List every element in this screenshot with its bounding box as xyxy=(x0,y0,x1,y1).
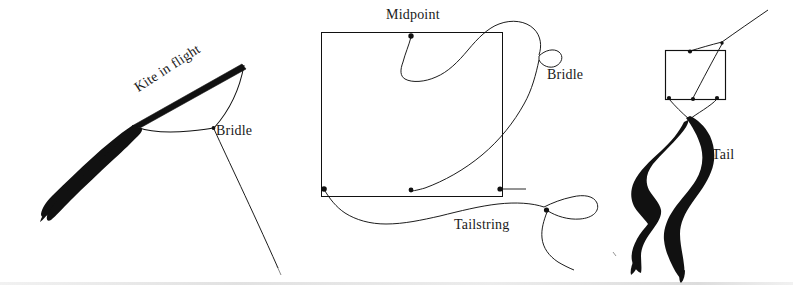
tail-streamer-secondary-icon xyxy=(47,128,142,221)
tail-bridle-right-leg xyxy=(690,99,717,119)
flying-line xyxy=(214,129,278,268)
corner-point-bottom-left xyxy=(321,186,327,192)
panel-kite-in-flight xyxy=(40,64,281,275)
kite-diagram-figure: Kite in flight Bridle Midpoint Bridle Ta… xyxy=(0,0,793,285)
tailstring-knot xyxy=(544,207,549,212)
tailstring-free-end xyxy=(542,212,574,270)
sail-square-outline xyxy=(322,33,503,197)
corner-point-bottom-middle xyxy=(409,188,414,193)
bridle-loop-icon xyxy=(539,50,562,67)
tow-point-knot xyxy=(212,126,216,130)
top-bridle-point xyxy=(688,49,692,53)
assembled-bridle-top-leg xyxy=(690,42,722,51)
label-bridle-middle: Bridle xyxy=(547,68,583,82)
assembled-sail-square xyxy=(666,51,726,100)
bridle-lower-leg xyxy=(136,127,213,132)
tailstring-path xyxy=(325,191,544,224)
label-midpoint: Midpoint xyxy=(386,8,440,22)
bridle-string-from-midpoint xyxy=(401,21,541,81)
label-bridle-left: Bridle xyxy=(216,124,252,138)
corner-point-bottom-right xyxy=(497,186,502,191)
panel-kite-with-tail xyxy=(631,10,768,283)
tailstring-loop-icon xyxy=(544,196,598,220)
label-tailstring: Tailstring xyxy=(454,218,509,232)
flying-line-tip xyxy=(277,266,281,275)
tail-bridle-left-leg xyxy=(669,99,689,119)
kite-diagram-canvas xyxy=(0,0,793,285)
assembled-bridle-mid-leg xyxy=(693,44,722,98)
tailstring-end-tick xyxy=(613,252,616,256)
panel-kite-flat-layout xyxy=(321,21,616,270)
label-tail: Tail xyxy=(712,148,734,162)
assembled-flying-line xyxy=(722,10,768,42)
